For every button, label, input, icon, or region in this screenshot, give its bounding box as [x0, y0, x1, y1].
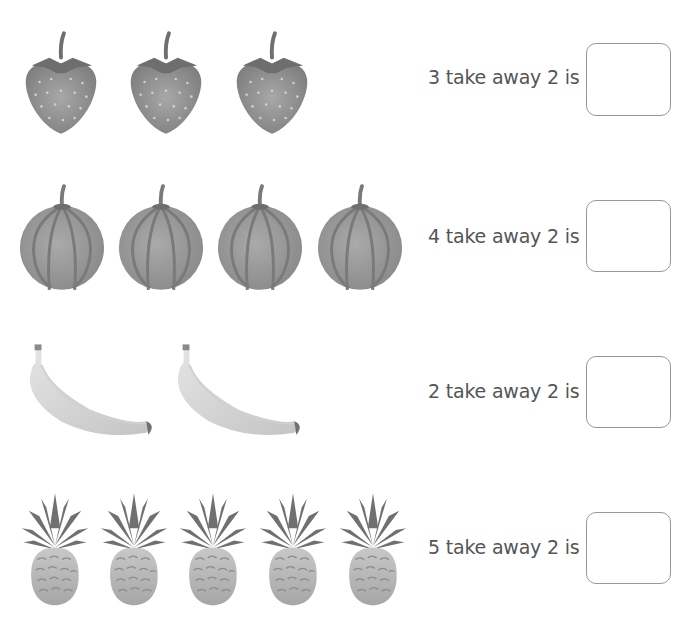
- question-row-4: 5 take away 2 is: [0, 0, 687, 623]
- pineapple-icon: [338, 486, 408, 614]
- question-text: 5 take away 2 is: [428, 536, 580, 558]
- pineapple-icon: [178, 486, 248, 614]
- pineapple-icon: [258, 486, 328, 614]
- pineapple-icon: [99, 486, 169, 614]
- answer-box[interactable]: [586, 512, 671, 584]
- pineapple-icon: [20, 486, 90, 614]
